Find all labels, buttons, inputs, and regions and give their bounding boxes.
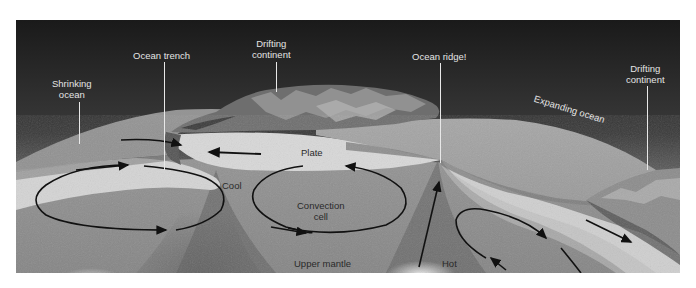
label-convection-cell: Convection cell: [297, 200, 345, 222]
label-drifting-continent-left: Drifting continent: [252, 38, 291, 60]
diagram-artwork: [16, 20, 680, 273]
label-cool: Cool: [222, 180, 242, 191]
label-ocean-trench: Ocean trench: [133, 50, 190, 61]
leader-drifting-continent-right: [647, 86, 648, 170]
leader-shrinking-ocean: [79, 102, 80, 144]
label-upper-mantle: Upper mantle: [294, 258, 351, 269]
label-drifting-continent-right: Drifting continent: [626, 63, 665, 85]
leader-ocean-trench: [164, 62, 165, 170]
leader-ocean-ridge: [440, 63, 441, 163]
leader-drifting-continent-left: [276, 62, 277, 92]
label-shrinking-ocean: Shrinking ocean: [52, 78, 92, 100]
label-plate: Plate: [301, 147, 323, 158]
plate-tectonics-diagram: Shrinking ocean Ocean trench Drifting co…: [16, 20, 680, 273]
label-hot: Hot: [442, 258, 457, 269]
label-ocean-ridge: Ocean ridge!: [412, 51, 466, 62]
